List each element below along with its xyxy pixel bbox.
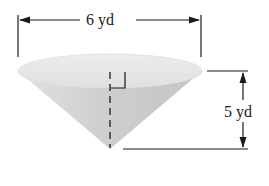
arrow-right-icon	[189, 17, 200, 24]
arrow-left-icon	[19, 17, 30, 24]
arrow-down-icon	[240, 137, 247, 148]
cone-base-ellipse	[18, 54, 202, 88]
cone-diagram	[0, 0, 269, 186]
arrow-up-icon	[240, 72, 247, 83]
diameter-label: 6 yd	[83, 12, 117, 28]
height-label: 5 yd	[224, 102, 252, 122]
